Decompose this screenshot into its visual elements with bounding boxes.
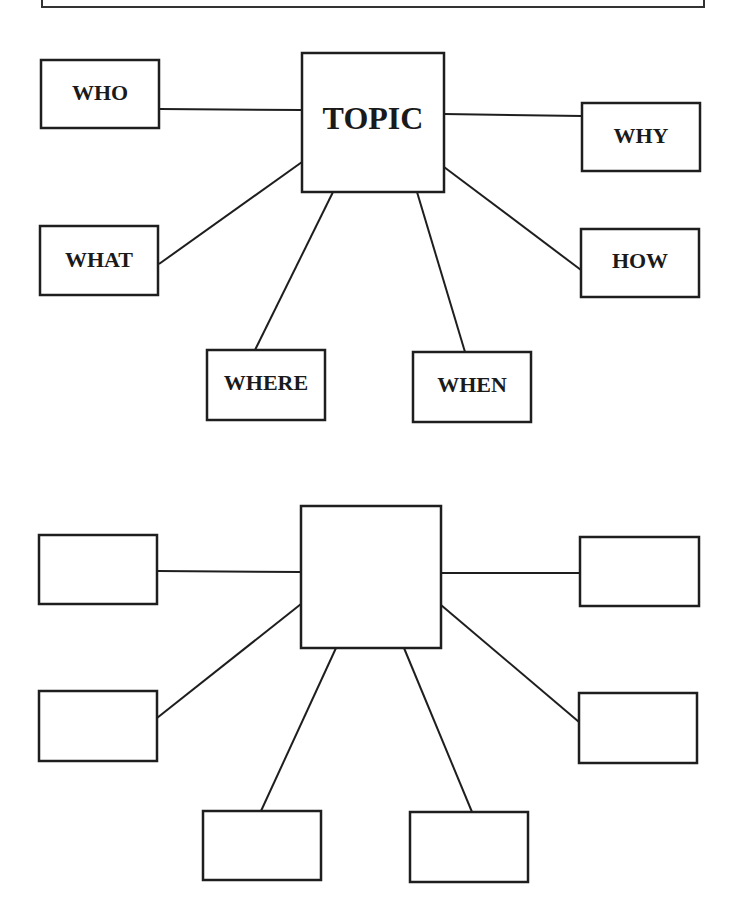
connector-who (160, 109, 302, 110)
node-label: WHERE (224, 370, 308, 395)
connector-where (255, 192, 333, 350)
node-how: HOW (581, 229, 699, 297)
connector-3 (157, 604, 301, 718)
node-when: WHEN (413, 352, 531, 422)
connector-how (444, 167, 581, 270)
node-label: HOW (612, 248, 668, 273)
blank-node-1[interactable] (39, 535, 157, 604)
node-why: WHY (582, 103, 700, 171)
node-where: WHERE (207, 350, 325, 420)
example-topic-map: TOPIC WHO WHY WHAT HOW WHERE WHEN (0, 0, 740, 460)
connector-1 (157, 571, 301, 572)
node-label: WHY (614, 123, 669, 148)
node-what: WHAT (40, 226, 158, 295)
topic-label: TOPIC (323, 100, 424, 136)
connector-why (444, 114, 582, 116)
connector-when (417, 192, 465, 352)
connector-6 (404, 648, 472, 812)
blank-topic-map (0, 460, 740, 916)
connector-5 (261, 648, 336, 811)
connector-what (159, 162, 302, 264)
connector-4 (441, 605, 579, 722)
blank-node-5[interactable] (203, 811, 321, 880)
blank-node-6[interactable] (410, 812, 528, 882)
node-who: WHO (41, 60, 159, 128)
blank-node-4[interactable] (579, 693, 697, 763)
blank-node-2[interactable] (580, 537, 699, 606)
node-label: WHO (72, 80, 128, 105)
center-node[interactable] (301, 506, 441, 648)
topic-node: TOPIC (302, 53, 444, 192)
node-label: WHEN (437, 372, 507, 397)
node-label: WHAT (65, 247, 133, 272)
blank-node-3[interactable] (39, 691, 157, 761)
